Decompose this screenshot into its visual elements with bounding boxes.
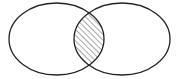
venn-diagram: [0, 0, 177, 79]
